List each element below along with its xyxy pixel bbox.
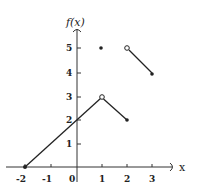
x-tick-label: -1 bbox=[42, 174, 52, 184]
closed-point bbox=[23, 165, 27, 169]
x-tick-label: 3 bbox=[149, 174, 155, 184]
x-tick-label: 2 bbox=[124, 174, 130, 184]
x-axis-label: x bbox=[179, 161, 186, 174]
y-tick-label: 2 bbox=[66, 115, 72, 125]
closed-point bbox=[99, 46, 103, 50]
open-point bbox=[125, 46, 130, 51]
graph-segments bbox=[25, 50, 152, 167]
y-axis-label: f(x) bbox=[65, 16, 85, 29]
x-tick-label: -2 bbox=[16, 174, 26, 184]
y-tick-label: 1 bbox=[66, 139, 72, 149]
y-tick-label: 4 bbox=[66, 68, 72, 78]
y-ticks bbox=[77, 48, 81, 144]
function-graph: -2 -1 0 1 2 3 1 2 3 4 5 f(x) x bbox=[0, 0, 199, 188]
x-tick-label: 1 bbox=[99, 174, 105, 184]
y-tick-label: 5 bbox=[66, 43, 72, 53]
closed-point bbox=[150, 72, 154, 76]
open-point bbox=[100, 95, 105, 100]
y-tick-label: 3 bbox=[66, 92, 72, 102]
closed-point bbox=[125, 118, 129, 122]
x-tick-label: 0 bbox=[69, 174, 75, 184]
